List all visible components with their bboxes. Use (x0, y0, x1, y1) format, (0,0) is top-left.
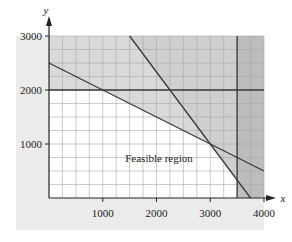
y-axis-arrow-icon (46, 16, 52, 26)
plot-area (49, 36, 264, 198)
y-axis-label: y (43, 4, 49, 16)
x-axis-arrow-icon (266, 195, 276, 201)
feasible-region-label: Feasible region (125, 152, 193, 164)
x-tick-label: 3000 (199, 207, 222, 219)
y-tick-label: 2000 (20, 84, 43, 96)
y-tick-label: 3000 (20, 30, 43, 42)
y-tick-label: 1000 (20, 138, 43, 150)
x-tick-label: 4000 (253, 207, 276, 219)
x-tick-label: 1000 (92, 207, 115, 219)
x-axis-label: x (280, 192, 286, 204)
feasible-region-chart: y x 1000200030004000100020003000 Feasibl… (0, 0, 292, 242)
x-tick-label: 2000 (146, 207, 169, 219)
